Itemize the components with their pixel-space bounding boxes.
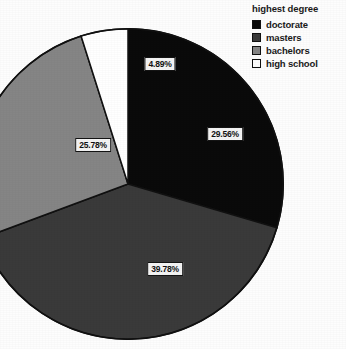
- legend-label-masters: masters: [266, 32, 301, 43]
- pie-chart-svg: [0, 27, 285, 341]
- slice-label-bachelors: 25.78%: [75, 138, 111, 152]
- slice-label-high-school: 4.89%: [144, 57, 175, 71]
- legend-label-doctorate: doctorate: [266, 19, 308, 30]
- legend-swatch-masters: [252, 33, 261, 42]
- pie-slice-group: [0, 29, 283, 339]
- legend-swatch-bachelors: [252, 46, 261, 55]
- legend-item-bachelors: bachelors: [252, 44, 344, 56]
- legend-item-high-school: high school: [252, 57, 344, 69]
- pie-chart: [0, 27, 285, 341]
- legend: highest degree doctorate masters bachelo…: [252, 3, 344, 70]
- legend-title: highest degree: [252, 3, 344, 14]
- slice-label-masters: 39.78%: [147, 262, 183, 276]
- legend-swatch-doctorate: [252, 20, 261, 29]
- slice-label-doctorate: 29.56%: [207, 127, 243, 141]
- legend-label-high-school: high school: [266, 58, 318, 69]
- legend-item-doctorate: doctorate: [252, 18, 344, 30]
- legend-item-masters: masters: [252, 31, 344, 43]
- legend-label-bachelors: bachelors: [266, 45, 310, 56]
- pie-chart-figure: 29.56% 39.78% 25.78% 4.89% highest degre…: [0, 0, 346, 349]
- legend-swatch-high-school: [252, 59, 261, 68]
